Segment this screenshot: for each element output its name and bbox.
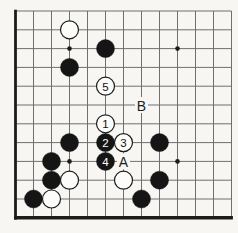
white-stone xyxy=(61,21,79,39)
star-point xyxy=(67,46,72,51)
black-stone xyxy=(61,58,79,76)
black-stone xyxy=(151,134,169,152)
white-stone xyxy=(115,171,133,189)
black-stone xyxy=(151,171,169,189)
black-stone xyxy=(25,190,43,208)
white-stone xyxy=(61,171,79,189)
go-board: 51234AB xyxy=(0,0,238,233)
black-stone xyxy=(43,152,61,170)
star-point xyxy=(175,46,180,51)
black-stone xyxy=(43,171,61,189)
stone-number: 1 xyxy=(102,118,108,130)
white-stone xyxy=(43,190,61,208)
black-stone xyxy=(97,40,115,58)
go-diagram: 51234AB xyxy=(0,0,238,233)
point-label-b: B xyxy=(137,98,146,114)
star-point xyxy=(67,159,72,164)
stone-number: 5 xyxy=(102,81,108,93)
stone-number: 2 xyxy=(102,137,108,149)
stone-number: 4 xyxy=(102,156,109,168)
star-point xyxy=(175,159,180,164)
point-label-a: A xyxy=(119,154,129,170)
black-stone xyxy=(133,190,151,208)
black-stone xyxy=(61,134,79,152)
stone-number: 3 xyxy=(120,137,126,149)
